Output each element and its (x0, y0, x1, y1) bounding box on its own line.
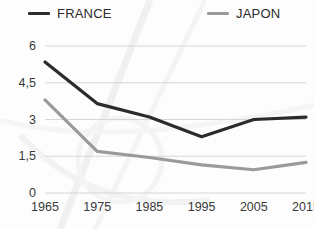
y-tick-label: 4,5 (2, 76, 36, 90)
x-tick-label: 1965 (23, 200, 67, 214)
series-lines (45, 62, 306, 170)
plot-svg (0, 0, 314, 229)
y-tick-label: 1,5 (2, 149, 36, 163)
x-tick-label: 1975 (75, 200, 119, 214)
x-tick-label: 1995 (180, 200, 224, 214)
series-line-france (45, 62, 306, 137)
x-tick-label: 2005 (232, 200, 276, 214)
x-tick-label: 2015 (284, 200, 314, 214)
series-line-japon (45, 100, 306, 170)
y-tick-label: 3 (2, 113, 36, 127)
x-tick-label: 1985 (127, 200, 171, 214)
y-tick-label: 6 (2, 39, 36, 53)
plot-area: 01,534,56 196519751985199520052015 (0, 0, 314, 229)
chart-container: FRANCE JAPON 01,534,56 19651975198519952… (0, 0, 314, 229)
y-tick-label: 0 (2, 186, 36, 200)
